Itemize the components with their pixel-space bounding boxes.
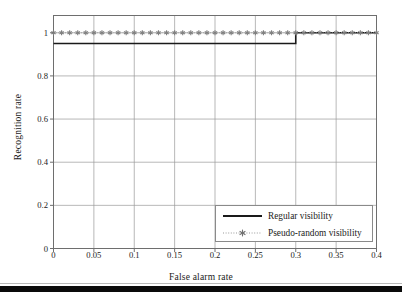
x-axis-title: False alarm rate — [0, 272, 402, 282]
y-tick-label: 0.8 — [24, 71, 48, 81]
x-tick-label: 0.1 — [129, 250, 140, 260]
y-tick-label: 0.6 — [24, 114, 48, 124]
x-tick-label: 0.35 — [329, 250, 344, 260]
legend-entry-regular-visibility: Regular visibility — [216, 207, 372, 224]
chart-legend: Regular visibility Pseudo-random visibil… — [215, 205, 373, 242]
x-tick-label: 0 — [51, 250, 55, 260]
page-edge-bar — [0, 286, 402, 292]
x-tick-label: 0.2 — [210, 250, 221, 260]
x-tick-label: 0.15 — [167, 250, 182, 260]
plot-canvas — [0, 0, 402, 292]
y-axis-title: Recognition rate — [13, 62, 23, 192]
page-edge-hairline — [0, 283, 402, 284]
legend-line-sample-solid — [221, 209, 264, 223]
legend-line-sample-dotted — [221, 226, 264, 240]
x-tick-label: 0.3 — [290, 250, 301, 260]
legend-entry-pseudo-random-visibility: Pseudo-random visibility — [216, 224, 372, 241]
legend-label-pseudo-random-visibility: Pseudo-random visibility — [268, 228, 362, 238]
legend-label-regular-visibility: Regular visibility — [268, 211, 333, 221]
chart-figure: Recognition rate False alarm rate 00.050… — [0, 0, 402, 292]
y-tick-label: 0.2 — [24, 200, 48, 210]
y-tick-label: 0.4 — [24, 157, 48, 167]
series-pseudo-random-visibility — [51, 30, 378, 35]
x-tick-label: 0.4 — [371, 250, 382, 260]
x-tick-label: 0.25 — [248, 250, 263, 260]
x-tick-label: 0.05 — [86, 250, 101, 260]
y-tick-label: 0 — [24, 244, 48, 254]
y-tick-label: 1 — [24, 28, 48, 38]
